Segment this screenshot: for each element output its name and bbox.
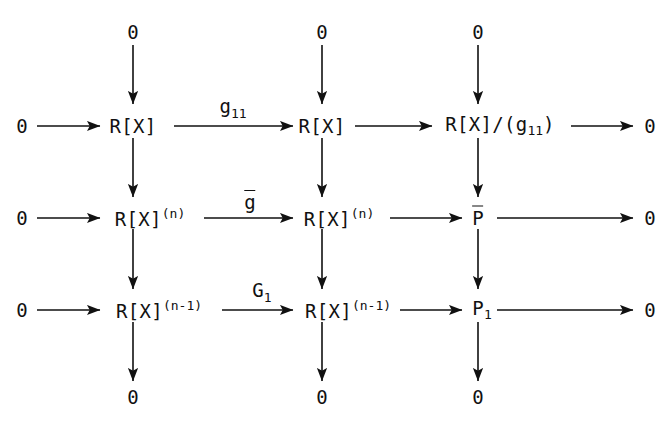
row-1-right-zero: 0 — [644, 117, 656, 136]
row-2-object-col1: R[X](n) — [115, 207, 185, 228]
row-3-label-sub: 1 — [264, 290, 272, 305]
row-1-object-col2: R[X] — [299, 117, 346, 136]
row-3-col3-base: P — [472, 297, 484, 319]
row-2-left-zero: 0 — [16, 209, 28, 228]
row-3-object-col1: R[X](n-1) — [116, 299, 202, 320]
row-1-arrow-label: g11 — [219, 97, 246, 120]
bottom-zero-col3: 0 — [472, 388, 484, 407]
row-2-object-col3: P — [472, 209, 484, 228]
row-3-right-zero: 0 — [644, 301, 656, 320]
row-2-col2-sup: (n) — [351, 206, 374, 221]
row-3-col1-base: R[X] — [116, 300, 163, 322]
top-zero-col3: 0 — [472, 23, 484, 42]
row-2-col1-sup: (n) — [162, 206, 185, 221]
row-3-label-base: G — [252, 279, 263, 301]
commutative-diagram: 0 0 0 0 R[X] g11 R[X] R[X]/(g11) 0 0 R[X… — [0, 0, 671, 425]
row-3-object-col3: P1 — [472, 299, 492, 322]
row-1-col1-base: R[X] — [110, 115, 157, 137]
bottom-zero-col2: 0 — [316, 388, 328, 407]
row-1-label-base: g — [219, 95, 230, 117]
row-3-object-col2: R[X](n-1) — [305, 299, 391, 320]
top-zero-col2: 0 — [316, 23, 328, 42]
row-2-col3-base: P — [472, 209, 484, 228]
row-1-col3-base: R[X]/(g — [445, 113, 527, 135]
row-1-left-zero: 0 — [16, 117, 28, 136]
row-3-left-zero: 0 — [16, 301, 28, 320]
row-3-col2-base: R[X] — [305, 300, 352, 322]
row-3-col3-sub: 1 — [484, 307, 492, 322]
row-3-col1-sup: (n-1) — [163, 298, 202, 313]
row-2-col2-base: R[X] — [304, 208, 351, 230]
row-1-object-col3: R[X]/(g11) — [445, 115, 555, 138]
row-2-right-zero: 0 — [644, 209, 656, 228]
row-1-col3-sub: 11 — [527, 123, 543, 138]
row-1-col2-base: R[X] — [299, 115, 346, 137]
row-1-object-col1: R[X] — [110, 117, 157, 136]
row-2-arrow-label: g — [244, 193, 255, 212]
row-2-object-col2: R[X](n) — [304, 207, 374, 228]
row-3-col2-sup: (n-1) — [352, 298, 391, 313]
bottom-zero-col1: 0 — [127, 388, 139, 407]
row-2-label-base: g — [244, 193, 255, 212]
top-zero-col1: 0 — [127, 23, 139, 42]
row-3-arrow-label: G1 — [252, 281, 271, 304]
row-2-col1-base: R[X] — [115, 208, 162, 230]
row-1-col3-tail: ) — [543, 113, 555, 135]
row-1-label-sub: 11 — [231, 106, 247, 121]
